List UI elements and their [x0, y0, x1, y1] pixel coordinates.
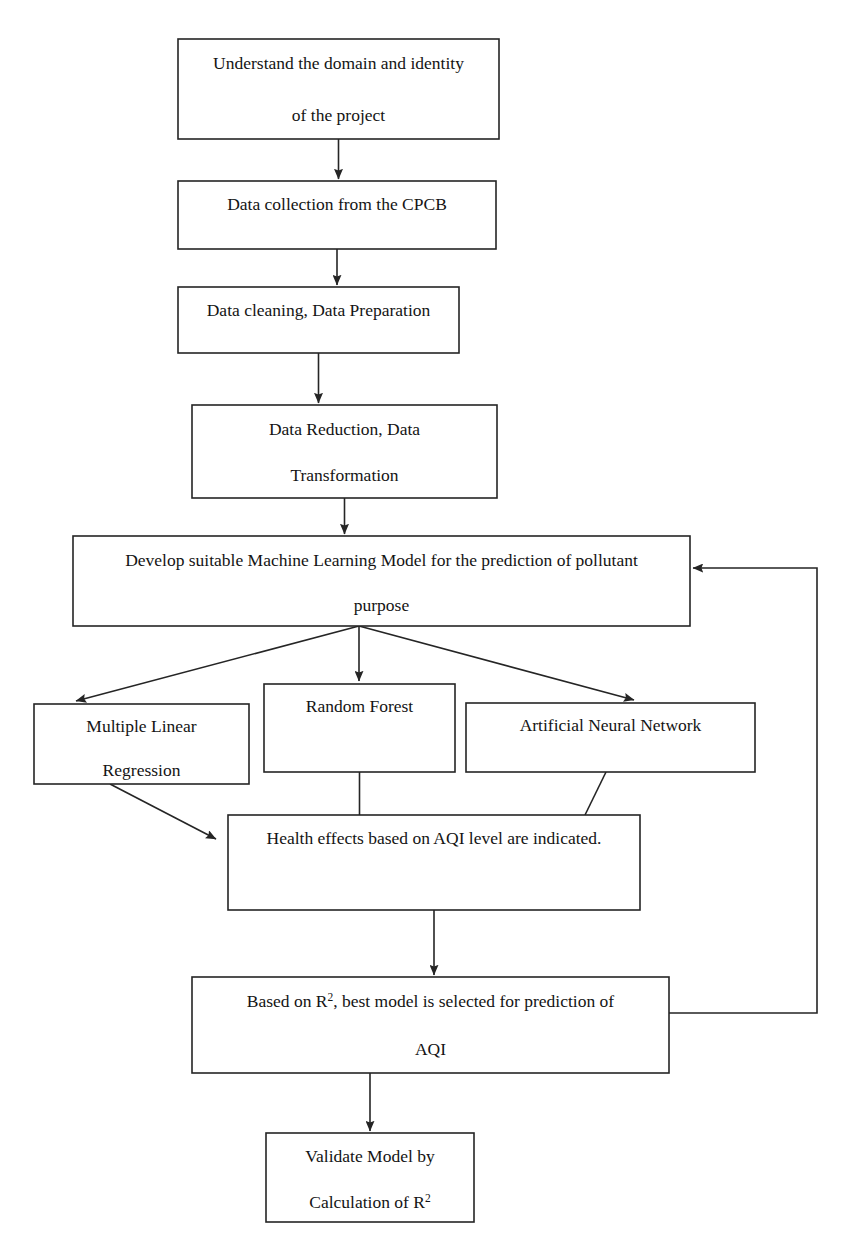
node-label-understand-domain: of the project — [292, 105, 385, 125]
node-label-multiple-linear-regression: Regression — [103, 760, 181, 780]
edge-ann-to-health — [585, 772, 606, 815]
node-label-validate-model: Validate Model by — [305, 1146, 435, 1166]
flow-node-data-cleaning: Data cleaning, Data Preparation — [178, 287, 459, 353]
flow-node-random-forest: Random Forest — [264, 684, 455, 772]
flow-node-understand-domain: Understand the domain and identityof the… — [178, 39, 499, 139]
flowchart-diagram: Understand the domain and identityof the… — [0, 0, 855, 1247]
flow-node-best-model-selection: Based on R2, best model is selected for … — [192, 977, 669, 1073]
node-label-artificial-neural-network: Artificial Neural Network — [520, 715, 702, 735]
node-label-random-forest: Random Forest — [306, 696, 414, 716]
nodes-layer: Understand the domain and identityof the… — [34, 39, 755, 1222]
edge-mlr-to-health — [110, 784, 216, 839]
flow-node-multiple-linear-regression: Multiple LinearRegression — [34, 704, 249, 784]
node-label-health-effects: Health effects based on AQI level are in… — [267, 828, 602, 848]
flow-node-data-collection: Data collection from the CPCB — [178, 181, 496, 249]
node-label-best-model-selection: Based on R2, best model is selected for … — [247, 991, 615, 1012]
flow-node-health-effects: Health effects based on AQI level are in… — [228, 815, 640, 910]
node-label-data-reduction: Data Reduction, Data — [269, 419, 420, 439]
node-box-artificial-neural-network — [466, 703, 755, 772]
node-label-develop-model: Develop suitable Machine Learning Model … — [125, 550, 638, 570]
node-label-multiple-linear-regression: Multiple Linear — [86, 716, 196, 736]
node-label-validate-model: Calculation of R2 — [309, 1192, 431, 1213]
edge-feedback-to-develop — [669, 568, 817, 1013]
node-box-data-collection — [178, 181, 496, 249]
node-label-data-cleaning: Data cleaning, Data Preparation — [207, 300, 431, 320]
flow-node-artificial-neural-network: Artificial Neural Network — [466, 703, 755, 772]
node-box-data-cleaning — [178, 287, 459, 353]
flowchart-canvas: Understand the domain and identityof the… — [0, 0, 855, 1247]
node-label-data-reduction: Transformation — [290, 465, 398, 485]
flow-node-data-reduction: Data Reduction, DataTransformation — [192, 405, 497, 498]
flow-node-develop-model: Develop suitable Machine Learning Model … — [73, 536, 690, 626]
flow-node-validate-model: Validate Model byCalculation of R2 — [266, 1133, 474, 1222]
node-label-best-model-selection: AQI — [415, 1039, 446, 1059]
node-label-data-collection: Data collection from the CPCB — [227, 194, 447, 214]
node-label-develop-model: purpose — [354, 595, 410, 615]
node-label-understand-domain: Understand the domain and identity — [213, 53, 464, 73]
